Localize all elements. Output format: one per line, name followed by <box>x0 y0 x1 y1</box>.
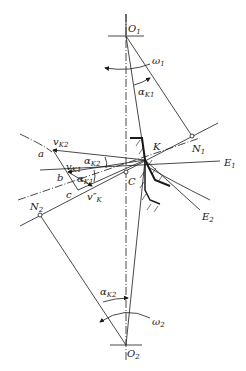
label-c: C <box>128 176 136 187</box>
label-e2: E2 <box>201 211 214 224</box>
label-b: b <box>57 172 63 183</box>
label-vppk: v″K <box>87 191 102 204</box>
label-alpha-k2-mid: αK2 <box>84 155 101 168</box>
e2-line <box>145 160 200 210</box>
label-alpha-k1-mid: αK1 <box>77 173 93 186</box>
tooth-profile-1 <box>130 138 170 186</box>
o2-k-line <box>126 160 145 345</box>
label-n1: N1 <box>191 143 205 156</box>
vk2-vector <box>53 150 145 160</box>
label-a: a <box>38 148 44 159</box>
label-o2: O2 <box>127 348 140 361</box>
label-o1: O1 <box>128 23 141 36</box>
o2-n2-line <box>40 215 126 345</box>
label-e1: E1 <box>223 157 236 170</box>
line-of-action <box>20 123 218 226</box>
label-alpha-k1-top: αK1 <box>138 86 154 99</box>
label-c-small: c <box>66 189 72 200</box>
label-alpha-k2-bottom: αK2 <box>100 286 117 299</box>
label-omega1: ω1 <box>152 55 165 68</box>
o1-n1-line <box>126 36 192 136</box>
point-n1 <box>190 134 194 138</box>
label-omega2: ω2 <box>152 316 165 329</box>
point-c <box>124 170 128 174</box>
label-k: K <box>152 141 161 152</box>
label-n2: N2 <box>29 201 44 214</box>
gear-mesh-diagram: O1 O2 ω1 ω2 αK1 αK2 αK2 αK1 vK2 vK1 v″K … <box>0 0 246 371</box>
label-vk2: vK2 <box>53 136 69 149</box>
